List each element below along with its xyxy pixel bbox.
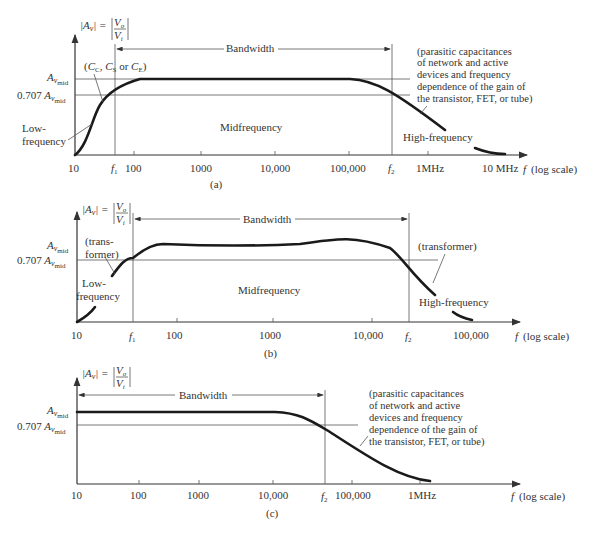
x-axis-label: f: [511, 490, 516, 502]
svg-text:100,000: 100,000: [330, 162, 366, 174]
svg-text:Vo: Vo: [116, 200, 127, 214]
svg-text:10,000: 10,000: [260, 162, 291, 174]
midfrequency-label: Midfrequency: [238, 284, 301, 296]
svg-text:Vo: Vo: [114, 16, 125, 30]
x-axis-label: f: [523, 163, 528, 175]
svg-text:Vi: Vi: [114, 29, 123, 43]
svg-text:100,000: 100,000: [335, 489, 371, 501]
low-frequency-label: Low-: [82, 277, 106, 289]
svg-text:100,000: 100,000: [453, 329, 489, 341]
svg-text:(log scale): (log scale): [519, 490, 565, 503]
y-axis-label: |Av| =: [82, 367, 109, 381]
response-curve: [75, 79, 445, 155]
midfrequency-label: Midfrequency: [220, 121, 283, 133]
svg-text:10: 10: [68, 162, 80, 174]
svg-text:100: 100: [130, 489, 147, 501]
svg-text:10 MHz: 10 MHz: [482, 162, 518, 174]
svg-text:devices and frequency: devices and frequency: [369, 412, 464, 423]
svg-text:(parasitic capacitances: (parasitic capacitances: [369, 388, 464, 400]
svg-text:f2: f2: [388, 162, 395, 176]
svg-text:former): former): [85, 248, 119, 261]
avmid-label: Avmid: [46, 71, 69, 87]
figure-a: |Av| = Vo Vi Avmid 0.707 Avmid Bandwidth…: [17, 16, 577, 191]
svg-text:1MHz: 1MHz: [416, 162, 444, 174]
svg-text:frequency: frequency: [76, 290, 120, 302]
svg-text:1000: 1000: [187, 489, 210, 501]
svg-text:Vi: Vi: [116, 377, 125, 391]
svg-text:f1: f1: [129, 330, 136, 344]
svg-text:devices and frequency: devices and frequency: [417, 69, 512, 80]
high-cause-note: (parasitic capacitances of network and a…: [417, 46, 533, 114]
svg-text:f2: f2: [405, 330, 412, 344]
svg-text:10,000: 10,000: [258, 489, 289, 501]
figure-c: |Av| = Vo Vi Avmid 0.707 Avmid Bandwidth…: [17, 364, 565, 520]
high-frequency-label: High-frequency: [419, 296, 489, 308]
svg-text:f1: f1: [111, 162, 118, 176]
svg-text:f2: f2: [321, 490, 328, 504]
svg-text:1MHz: 1MHz: [408, 489, 436, 501]
low-cause-label: (trans-: [85, 235, 114, 248]
bandwidth-label: Bandwidth: [179, 389, 228, 401]
svg-text:of network and active: of network and active: [417, 57, 509, 68]
bandwidth-label: Bandwidth: [243, 213, 292, 225]
svg-text:(log scale): (log scale): [531, 163, 577, 176]
svg-text:(log scale): (log scale): [523, 330, 569, 343]
caption-b: (b): [264, 347, 277, 360]
avmid-label: Avmid: [46, 404, 69, 420]
high-cause-label: (transformer): [418, 240, 477, 253]
svg-text:the transistor, FET, or tube): the transistor, FET, or tube): [369, 436, 485, 448]
svg-text:1000: 1000: [190, 162, 213, 174]
svg-text:100: 100: [166, 329, 183, 341]
svg-text:100: 100: [125, 162, 142, 174]
y-axis-label: |Av| =: [80, 19, 107, 33]
y-axis-label: |Av| =: [82, 203, 109, 217]
caption-a: (a): [210, 178, 223, 191]
svg-text:of network and active: of network and active: [369, 400, 461, 411]
bandwidth-label: Bandwidth: [226, 42, 275, 54]
0707-avmid-label: 0.707 Avmid: [17, 254, 66, 270]
svg-text:1000: 1000: [259, 329, 282, 341]
svg-text:Vo: Vo: [116, 364, 127, 378]
svg-text:10: 10: [71, 329, 83, 341]
high-frequency-label: High-frequency: [403, 131, 473, 143]
svg-text:the transistor, FET, or tube): the transistor, FET, or tube): [417, 93, 533, 105]
low-frequency-label: Low-: [22, 122, 46, 134]
svg-text:dependence of the gain of: dependence of the gain of: [417, 81, 526, 92]
svg-text:Vi: Vi: [116, 213, 125, 227]
svg-text:dependence of the gain of: dependence of the gain of: [369, 424, 478, 435]
0707-avmid-label: 0.707 Avmid: [17, 420, 66, 436]
svg-text:10,000: 10,000: [353, 329, 384, 341]
frequency-response-figures: |Av| = Vo Vi Avmid 0.707 Avmid Bandwidth…: [0, 0, 591, 537]
avmid-label: Avmid: [46, 239, 69, 255]
0707-avmid-label: 0.707 Avmid: [17, 89, 66, 105]
svg-text:frequency: frequency: [22, 135, 66, 147]
figure-b: |Av| = Vo Vi Avmid 0.707 Avmid Bandwidth…: [17, 200, 569, 360]
svg-text:10: 10: [71, 489, 83, 501]
high-cause-note: (parasitic capacitances of network and a…: [360, 388, 485, 448]
caption-c: (c): [266, 507, 279, 520]
x-axis-label: f: [515, 330, 520, 342]
